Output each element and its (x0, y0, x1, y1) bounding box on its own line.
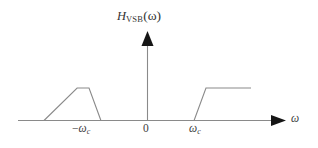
carrier-subscript: c (197, 127, 201, 136)
tick-label-origin: 0 (143, 123, 149, 135)
transfer-function-subscript: VSB (126, 14, 143, 24)
horizontal-axis-arrowhead (271, 115, 286, 126)
carrier-subscript: c (87, 127, 91, 136)
transfer-function-label: HVSB(ω) (117, 9, 161, 23)
omega-glyph: ω (79, 122, 87, 134)
transfer-function-symbol: H (117, 9, 126, 23)
transfer-function-argument: (ω) (143, 8, 161, 23)
upper-sideband-passband-shape (194, 88, 251, 121)
tick-label-negative-carrier-frequency: −ωc (72, 123, 90, 136)
vertical-axis-arrowhead (142, 31, 154, 46)
omega-glyph: ω (189, 122, 197, 134)
lower-sideband-passband-shape (44, 88, 101, 121)
x-axis-label: ω (291, 113, 299, 125)
vsb-filter-figure: HVSB(ω) −ωc 0 ωc ω (0, 0, 318, 148)
tick-label-positive-carrier-frequency: ωc (189, 123, 201, 136)
